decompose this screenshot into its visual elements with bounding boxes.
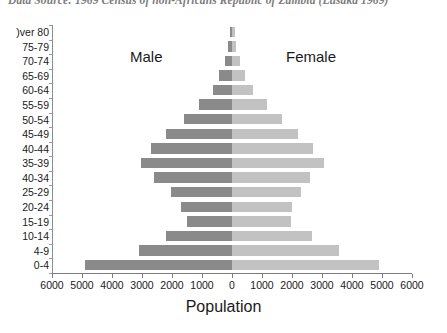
bar-male <box>139 245 232 255</box>
age-group-axis: )ver 8075-7970-7465-6960-6455-5950-5445-… <box>0 25 49 273</box>
pyramid-row <box>52 83 412 98</box>
bar-male <box>154 172 232 182</box>
age-group-label: 70-74 <box>1 54 49 69</box>
bar-female <box>232 27 235 37</box>
age-group-label: 60-64 <box>1 83 49 98</box>
age-group-label: 35-39 <box>1 156 49 171</box>
bar-male <box>171 187 233 197</box>
age-group-label: 65-69 <box>1 69 49 84</box>
bar-female <box>232 260 379 270</box>
population-pyramid-chart: )ver 8075-7970-7465-6960-6455-5950-5445-… <box>0 22 447 333</box>
bar-female <box>232 245 339 255</box>
bar-male <box>166 129 232 139</box>
pyramid-row <box>52 112 412 127</box>
bar-female <box>232 202 292 212</box>
age-group-label: 45-49 <box>1 127 49 142</box>
x-tick-label: 6000 <box>389 279 435 291</box>
bar-female <box>232 70 245 80</box>
age-group-label: 40-34 <box>1 171 49 186</box>
bar-male <box>151 143 232 153</box>
age-group-label: 0-4 <box>1 258 49 273</box>
bar-female <box>232 114 282 124</box>
x-axis-title: Population <box>0 298 447 316</box>
bar-male <box>166 231 232 241</box>
bar-female <box>232 172 310 182</box>
bar-female <box>232 143 313 153</box>
age-group-label: 15-19 <box>1 215 49 230</box>
age-group-label: 25-29 <box>1 185 49 200</box>
bar-male <box>213 85 232 95</box>
bar-female <box>232 56 240 66</box>
pyramid-row <box>52 258 412 273</box>
bar-female <box>232 85 253 95</box>
age-group-label: 50-54 <box>1 113 49 128</box>
bar-male <box>199 99 232 109</box>
bar-female <box>232 41 236 51</box>
age-group-label: 4-9 <box>1 244 49 259</box>
x-axis-ticks <box>52 274 412 278</box>
pyramid-row <box>52 215 412 230</box>
age-group-label: 55-59 <box>1 98 49 113</box>
pyramid-row <box>52 127 412 142</box>
plot-area <box>52 25 412 273</box>
age-group-label: 75-79 <box>1 40 49 55</box>
age-group-label: 10-14 <box>1 229 49 244</box>
pyramid-row <box>52 185 412 200</box>
bar-male <box>181 202 232 212</box>
bar-male <box>184 114 232 124</box>
bar-female <box>232 99 267 109</box>
pyramid-row <box>52 54 412 69</box>
series-label-female: Female <box>286 48 336 65</box>
pyramid-row <box>52 229 412 244</box>
bar-male <box>141 158 233 168</box>
bar-male <box>187 216 232 226</box>
bar-female <box>232 216 291 226</box>
data-source-caption: Data Source: 1969 Census of non-Africans… <box>8 0 447 8</box>
bar-female <box>232 187 301 197</box>
bar-male <box>225 56 232 66</box>
pyramid-row <box>52 40 412 55</box>
bar-male <box>85 260 232 270</box>
pyramid-row <box>52 200 412 215</box>
bar-female <box>232 158 324 168</box>
bar-male <box>219 70 232 80</box>
plot-left-spine <box>52 25 53 274</box>
pyramid-row <box>52 69 412 84</box>
pyramid-row <box>52 142 412 157</box>
age-group-label: )ver 80 <box>1 25 49 40</box>
pyramid-row <box>52 25 412 40</box>
age-group-label: 20-24 <box>1 200 49 215</box>
age-group-label: 40-44 <box>1 142 49 157</box>
pyramid-row <box>52 171 412 186</box>
pyramid-row <box>52 156 412 171</box>
x-axis-tick-labels: 6000500040003000200010000100020003000400… <box>0 279 447 293</box>
bar-female <box>232 129 298 139</box>
pyramid-row <box>52 244 412 259</box>
pyramid-row <box>52 98 412 113</box>
bar-female <box>232 231 312 241</box>
series-label-male: Male <box>130 48 163 65</box>
